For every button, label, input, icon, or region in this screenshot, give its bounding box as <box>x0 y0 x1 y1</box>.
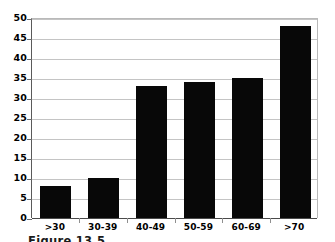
bar-40-49 <box>136 86 167 218</box>
y-axis-label-10: 10 <box>1 173 27 183</box>
bar->30 <box>40 186 71 218</box>
y-axis-label-5: 5 <box>1 193 27 203</box>
y-axis-label-group: 05101520253035404550 <box>0 0 27 242</box>
bars-group <box>32 19 317 218</box>
x-axis-label->30: >30 <box>31 222 79 233</box>
x-axis-label-50-59: 50-59 <box>175 222 223 233</box>
y-axis-label-50: 50 <box>1 13 27 23</box>
bar-50-59 <box>184 82 215 218</box>
bar-chart: 05101520253035404550 >3030-3940-4950-596… <box>0 0 335 242</box>
y-axis-label-30: 30 <box>1 93 27 103</box>
y-axis-label-15: 15 <box>1 153 27 163</box>
x-axis-label-40-49: 40-49 <box>127 222 175 233</box>
y-axis-label-25: 25 <box>1 113 27 123</box>
bar->70 <box>280 26 311 218</box>
y-axis-label-45: 45 <box>1 33 27 43</box>
y-axis-label-35: 35 <box>1 73 27 83</box>
x-axis-label->70: >70 <box>270 222 318 233</box>
bar-30-39 <box>88 178 119 218</box>
x-axis-label-60-69: 60-69 <box>222 222 270 233</box>
figure-caption: Figure 13.5 <box>28 234 105 242</box>
y-axis-label-0: 0 <box>1 213 27 223</box>
y-axis-label-20: 20 <box>1 133 27 143</box>
x-axis-label-30-39: 30-39 <box>79 222 127 233</box>
bar-60-69 <box>232 78 263 218</box>
plot-area <box>31 18 318 218</box>
y-axis-label-40: 40 <box>1 53 27 63</box>
